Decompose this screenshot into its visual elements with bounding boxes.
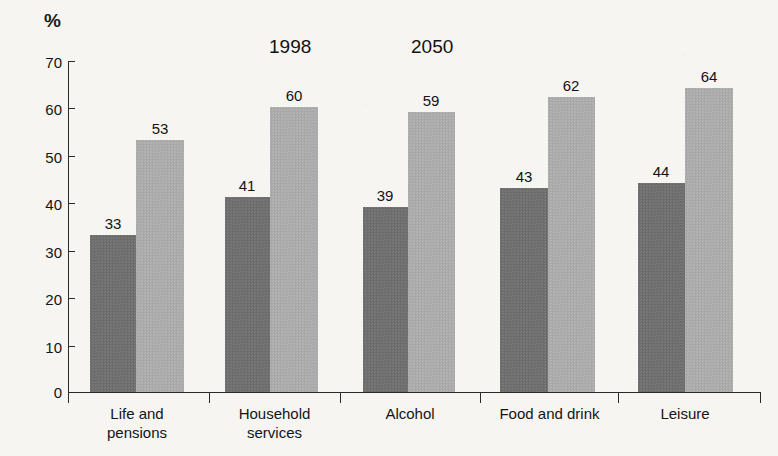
x-category-label-line-1: Life and <box>77 404 197 423</box>
bar-1998-life-and-pensions[interactable] <box>90 235 136 392</box>
legend-label-1998[interactable]: 1998 <box>269 37 311 56</box>
bar-value-1998-leisure: 44 <box>636 164 686 179</box>
x-category-label-line-1: Leisure <box>625 404 745 423</box>
bar-value-1998-life-and-pensions: 33 <box>88 216 138 231</box>
bar-value-2050-food-and-drink: 62 <box>546 78 596 93</box>
x-category-label-leisure: Leisure <box>625 404 745 423</box>
bar-2050-household-services[interactable] <box>270 107 318 392</box>
legend-swatch-2050[interactable] <box>365 36 388 56</box>
bar-value-1998-food-and-drink: 43 <box>499 169 549 184</box>
bar-1998-alcohol[interactable] <box>363 207 408 392</box>
bar-chart: % 70 60 50 40 30 20 10 0 33 53 41 60 39 … <box>0 0 778 456</box>
x-category-label-life-and-pensions: Life and pensions <box>77 404 197 442</box>
plot-area: 33 53 41 60 39 59 43 62 44 64 <box>0 0 778 392</box>
legend-swatch-1998[interactable] <box>225 36 248 56</box>
x-category-label-household-services: Household services <box>212 404 337 442</box>
bar-1998-food-and-drink[interactable] <box>500 188 548 392</box>
bar-2050-alcohol[interactable] <box>408 112 455 392</box>
legend-label-2050[interactable]: 2050 <box>411 37 453 56</box>
x-category-label-line-1: Alcohol <box>350 404 470 423</box>
x-category-label-line-2: services <box>212 423 337 442</box>
x-group-separator-2 <box>340 392 341 403</box>
bar-2050-life-and-pensions[interactable] <box>136 140 184 392</box>
bar-1998-household-services[interactable] <box>225 197 270 392</box>
x-category-label-alcohol: Alcohol <box>350 404 470 423</box>
bar-value-1998-household-services: 41 <box>222 178 272 193</box>
bar-value-1998-alcohol: 39 <box>360 188 410 203</box>
x-group-separator-4 <box>618 392 619 403</box>
x-category-label-line-2: pensions <box>77 423 197 442</box>
bar-1998-leisure[interactable] <box>638 183 685 392</box>
x-group-separator-3 <box>480 392 481 403</box>
x-axis-end-cap-right <box>760 392 761 403</box>
bar-value-2050-leisure: 64 <box>684 69 734 84</box>
bar-value-2050-household-services: 60 <box>269 88 319 103</box>
x-category-label-line-1: Food and drink <box>482 404 617 423</box>
x-category-label-line-1: Household <box>212 404 337 423</box>
bar-value-2050-alcohol: 59 <box>406 93 456 108</box>
x-group-separator-1 <box>209 392 210 403</box>
x-axis-end-cap-left <box>68 392 69 403</box>
bar-value-2050-life-and-pensions: 53 <box>135 121 185 136</box>
x-category-label-food-and-drink: Food and drink <box>482 404 617 423</box>
bar-2050-leisure[interactable] <box>685 88 733 392</box>
bar-2050-food-and-drink[interactable] <box>548 97 595 392</box>
x-axis-line <box>68 392 761 393</box>
